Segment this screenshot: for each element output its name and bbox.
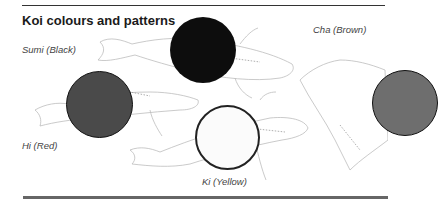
swatch-hi-red	[66, 71, 133, 138]
swatch-sumi-black	[170, 17, 236, 83]
label-sumi: Sumi (Black)	[22, 44, 76, 55]
label-ki: Ki (Yellow)	[202, 176, 247, 187]
label-cha: Cha (Brown)	[313, 24, 366, 35]
swatch-cha-brown	[372, 70, 438, 136]
label-hi: Hi (Red)	[22, 140, 57, 151]
swatch-ki-yellow	[195, 105, 260, 170]
bottom-rule	[23, 196, 388, 199]
